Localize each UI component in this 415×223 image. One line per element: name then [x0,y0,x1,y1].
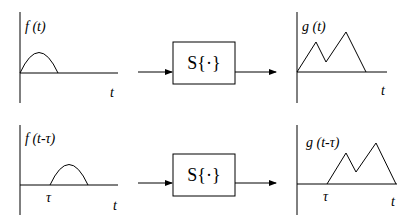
output-waveform [297,32,366,72]
input-plot-top: f (t) t [20,12,118,103]
input-plot-bottom: f (t-τ) τ t [20,125,118,215]
output-plot-top: g (t) t [297,12,387,103]
system-label: S{·} [187,165,220,185]
system-block-bottom: S{·} [138,154,276,196]
output-plot-bottom: g (t-τ) τ t [297,125,397,215]
shifted-input-label: f (t-τ) [25,131,56,147]
tau-label: τ [46,190,52,205]
tau-label: τ [323,189,329,204]
shifted-output-label: g (t-τ) [306,135,340,151]
system-block-top: S{·} [138,42,276,84]
input-label: f (t) [25,19,46,35]
input-pulse [20,53,58,74]
time-axis-label: t [391,194,396,209]
time-axis-label: t [113,198,118,213]
system-label: S{·} [187,53,220,73]
shifted-input-pulse [50,165,88,186]
diagram: f (t) t S{·} g (t) t f (t-τ) τ t S{·} g [0,0,415,223]
output-label: g (t) [302,19,326,35]
time-axis-label: t [110,85,115,100]
diagram-canvas: f (t) t S{·} g (t) t f (t-τ) τ t S{·} g [0,0,415,223]
time-axis-label: t [381,83,386,98]
